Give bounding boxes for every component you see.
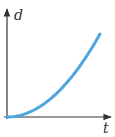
distance-time-chart: d t <box>0 0 115 137</box>
x-axis-label: t <box>103 120 109 136</box>
data-curve <box>7 34 100 117</box>
y-axis-label: d <box>14 7 23 23</box>
